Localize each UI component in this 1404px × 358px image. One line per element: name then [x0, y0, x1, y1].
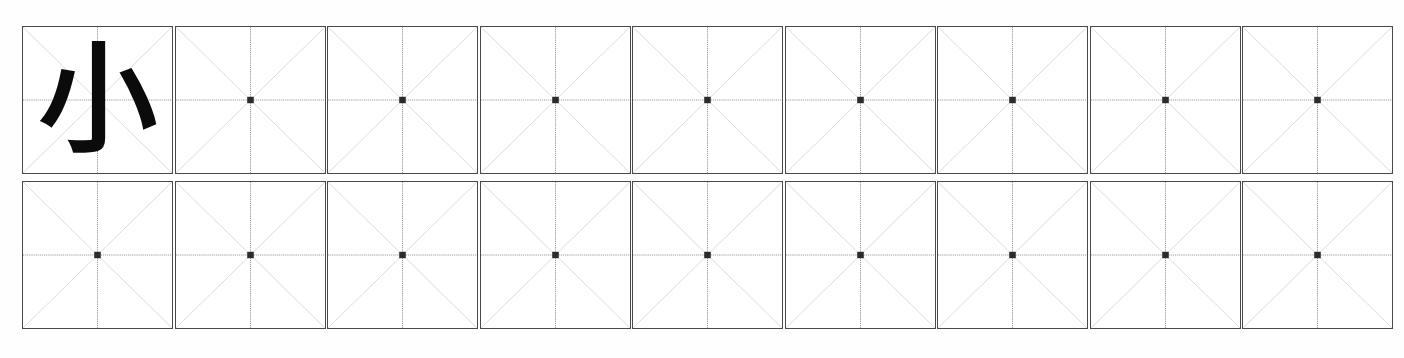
- mizige-guide-lines: [23, 182, 172, 328]
- center-dot: [247, 97, 254, 103]
- center-dot: [552, 252, 559, 258]
- mizige-guide-lines: [1243, 27, 1392, 173]
- practice-cell-r2c8[interactable]: [1090, 181, 1241, 329]
- practice-cell-r2c7[interactable]: [937, 181, 1088, 329]
- practice-cell-r1c3[interactable]: [327, 26, 478, 174]
- mizige-guide-lines: [1091, 182, 1240, 328]
- center-dot: [1314, 252, 1321, 258]
- mizige-guide-lines: [328, 182, 477, 328]
- mizige-guide-lines: [633, 182, 782, 328]
- practice-cell-r2c2[interactable]: [175, 181, 326, 329]
- practice-cell-r1c4[interactable]: [480, 26, 631, 174]
- practice-cell-r2c5[interactable]: [632, 181, 783, 329]
- mizige-guide-lines: [938, 27, 1087, 173]
- practice-cell-r2c6[interactable]: [785, 181, 936, 329]
- center-dot: [1009, 252, 1016, 258]
- character-practice-worksheet: 小: [0, 0, 1404, 358]
- center-dot: [857, 97, 864, 103]
- practice-cell-r1c6[interactable]: [785, 26, 936, 174]
- practice-grid-row: 小: [22, 26, 1393, 174]
- practice-cell-r1c5[interactable]: [632, 26, 783, 174]
- center-dot: [94, 252, 101, 258]
- mizige-guide-lines: [1091, 27, 1240, 173]
- practice-cell-r1c9[interactable]: [1242, 26, 1393, 174]
- practice-cell-r1c8[interactable]: [1090, 26, 1241, 174]
- mizige-guide-lines: [176, 27, 325, 173]
- mizige-guide-lines: [328, 27, 477, 173]
- center-dot: [1314, 97, 1321, 103]
- mizige-guide-lines: [481, 27, 630, 173]
- center-dot: [247, 252, 254, 258]
- mizige-guide-lines: [633, 27, 782, 173]
- center-dot: [1162, 97, 1169, 103]
- practice-cell-r1c1[interactable]: 小: [22, 26, 173, 174]
- center-dot: [704, 252, 711, 258]
- practice-cell-r2c4[interactable]: [480, 181, 631, 329]
- practice-cell-r1c2[interactable]: [175, 26, 326, 174]
- model-character: 小: [23, 27, 172, 173]
- center-dot: [1009, 97, 1016, 103]
- practice-cell-r1c7[interactable]: [937, 26, 1088, 174]
- practice-grid: 小: [22, 26, 1393, 329]
- practice-cell-r2c9[interactable]: [1242, 181, 1393, 329]
- mizige-guide-lines: [481, 182, 630, 328]
- practice-cell-r2c1[interactable]: [22, 181, 173, 329]
- center-dot: [1162, 252, 1169, 258]
- mizige-guide-lines: [1243, 182, 1392, 328]
- center-dot: [704, 97, 711, 103]
- practice-grid-row: [22, 181, 1393, 329]
- center-dot: [857, 252, 864, 258]
- mizige-guide-lines: [176, 182, 325, 328]
- center-dot: [552, 97, 559, 103]
- mizige-guide-lines: [786, 182, 935, 328]
- mizige-guide-lines: [938, 182, 1087, 328]
- practice-cell-r2c3[interactable]: [327, 181, 478, 329]
- mizige-guide-lines: [786, 27, 935, 173]
- center-dot: [399, 252, 406, 258]
- center-dot: [399, 97, 406, 103]
